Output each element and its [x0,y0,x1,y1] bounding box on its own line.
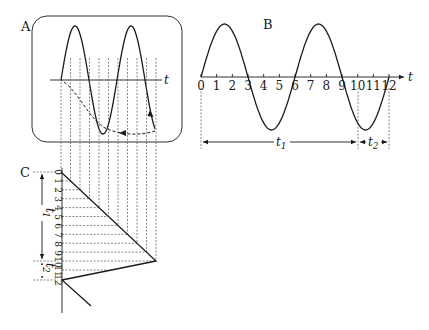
c-tick-label: 5 [53,214,63,220]
panel-a-label: A [20,19,31,34]
b-tick-label: 9 [338,79,346,93]
c-tick-label: 12 [53,274,63,285]
trace-direction-arrow-icon [148,110,154,117]
b-tick-label: 8 [323,79,331,93]
c-tick-label: 4 [53,205,63,211]
c-tick-label: 0 [53,169,63,175]
panel-c: C t 1 t 2 0123456789101112 [20,165,156,313]
b-tick-label: 5 [276,79,284,93]
b-tick-label: 3 [244,79,252,93]
b-tick-label: 10 [350,79,365,93]
b-tick-label: 1 [213,79,221,93]
c-tick-label: 7 [53,232,63,238]
svg-text:2: 2 [41,266,51,273]
retrace-arrow-icon [119,130,126,136]
svg-text:1: 1 [41,212,51,218]
b-tick-label: 0 [197,79,205,93]
panel-b-axis-label: t [408,70,413,84]
c-tick-label: 8 [53,241,63,247]
panel-a-axis-label: t [164,73,169,87]
panel-b: B t 0123456789101112 t1 t2 [197,17,413,151]
panel-a: A t [20,16,182,142]
b-tick-label: 12 [381,79,396,93]
c-tick-label: 3 [53,196,63,202]
c-tick-label: 9 [53,250,63,256]
b-tick-label: 4 [260,79,268,93]
b-tick-label: 2 [229,79,237,93]
projection-lines [61,58,156,270]
sweep-diagram: A t C t 1 t 2 0123456789101112 [0,0,429,330]
b-tick-label: 6 [291,79,299,93]
b-tick-label: 11 [366,79,381,93]
b-tick-label: 7 [307,79,315,93]
oscilloscope-screen [32,16,182,142]
c-tick-label: 1 [53,178,63,184]
c-tick-label: 2 [53,187,63,193]
c-tick-label: 6 [53,223,63,229]
panel-b-label: B [263,17,273,32]
panel-c-tick-labels: 0123456789101112 [53,169,63,286]
panel-c-label: C [20,165,30,180]
